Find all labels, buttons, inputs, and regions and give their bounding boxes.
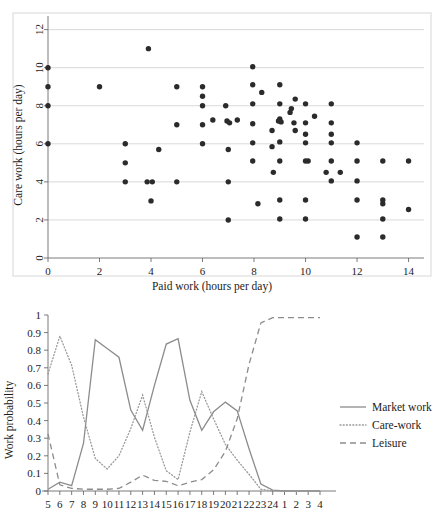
scatter-point (144, 179, 149, 184)
x-tick-label: 0 (45, 265, 51, 277)
x-tick-label: 10 (102, 498, 114, 510)
scatter-point (380, 158, 385, 163)
y-tick-label: 0 (36, 485, 42, 497)
x-tick-label: 11 (114, 498, 125, 510)
scatter-point (293, 128, 298, 133)
scatter-point (226, 217, 231, 222)
scatter-point (354, 178, 359, 183)
x-tick-label: 15 (161, 498, 173, 510)
scatter-point (277, 139, 282, 144)
scatter-data-points (45, 46, 411, 240)
scatter-point (303, 216, 308, 221)
line-x-tick-labels: 567891011121314151617181920212223241234 (45, 498, 323, 510)
scatter-point (250, 82, 255, 87)
y-tick-label: 10 (33, 62, 45, 74)
y-tick-label: 0.1 (27, 467, 41, 479)
scatter-point (323, 170, 328, 175)
line-y-axis-title: Work probability (3, 380, 16, 459)
scatter-point (278, 119, 283, 124)
scatter-point (329, 120, 334, 125)
x-tick-label: 3 (305, 498, 311, 510)
scatter-point (259, 90, 264, 95)
scatter-svg: 02468101214 024681012 Paid work (hours p… (0, 0, 444, 295)
scatter-point (156, 147, 161, 152)
scatter-point (271, 170, 276, 175)
scatter-axis-lines (44, 16, 424, 262)
x-tick-label: 10 (300, 265, 312, 277)
scatter-point (277, 101, 282, 106)
scatter-point (200, 94, 205, 99)
x-tick-label: 14 (403, 265, 415, 277)
x-tick-label: 6 (57, 498, 63, 510)
scatter-point (329, 178, 334, 183)
scatter-point (250, 64, 255, 69)
scatter-point (303, 101, 308, 106)
scatter-point (354, 197, 359, 202)
y-tick-label: 0.4 (27, 415, 41, 427)
y-tick-label: 4 (33, 179, 45, 185)
scatter-point (287, 110, 292, 115)
x-tick-label: 8 (81, 498, 87, 510)
x-tick-label: 12 (125, 498, 136, 510)
x-tick-label: 12 (352, 265, 363, 277)
legend-label-leisure: Leisure (372, 437, 406, 449)
x-tick-label: 16 (173, 498, 185, 510)
scatter-point (45, 141, 50, 146)
x-tick-label: 23 (255, 498, 267, 510)
line-y-tick-labels: 00.10.20.30.40.50.60.70.80.91 (27, 309, 41, 497)
scatter-point (380, 201, 385, 206)
y-tick-label: 0.7 (27, 362, 41, 374)
line-series-group (48, 318, 320, 491)
scatter-point (305, 158, 310, 163)
scatter-point (200, 141, 205, 146)
y-tick-label: 12 (33, 24, 45, 35)
x-tick-label: 1 (282, 498, 288, 510)
scatter-point (174, 179, 179, 184)
scatter-point (174, 122, 179, 127)
scatter-point (303, 132, 308, 137)
scatter-x-tick-labels: 02468101214 (45, 265, 414, 277)
scatter-point (380, 216, 385, 221)
y-tick-label: 0.2 (27, 450, 41, 462)
x-tick-label: 17 (184, 498, 196, 510)
scatter-point (250, 158, 255, 163)
scatter-point (250, 101, 255, 106)
series-path-leisure (48, 318, 320, 490)
y-tick-label: 0.6 (27, 379, 41, 391)
scatter-point (250, 121, 255, 126)
scatter-point (250, 140, 255, 145)
scatter-point (329, 140, 334, 145)
scatter-point (277, 158, 282, 163)
scatter-point (380, 234, 385, 239)
scatter-point (269, 144, 274, 149)
x-tick-label: 20 (220, 498, 232, 510)
y-tick-label: 0.9 (27, 327, 41, 339)
x-tick-label: 22 (244, 498, 255, 510)
scatter-point (235, 117, 240, 122)
x-tick-label: 9 (93, 498, 99, 510)
scatter-point (174, 84, 179, 89)
x-tick-label: 19 (208, 498, 220, 510)
scatter-point (123, 179, 128, 184)
scatter-point (227, 120, 232, 125)
x-tick-label: 2 (294, 498, 300, 510)
y-tick-label: 8 (33, 102, 45, 108)
scatter-point (277, 82, 282, 87)
scatter-point (97, 84, 102, 89)
line-axis-lines (42, 315, 336, 491)
scatter-point (146, 46, 151, 51)
scatter-point (200, 103, 205, 108)
x-tick-label: 18 (196, 498, 208, 510)
x-tick-label: 21 (232, 498, 243, 510)
scatter-gridlines (48, 30, 424, 220)
scatter-point (312, 114, 317, 119)
x-tick-label: 2 (97, 265, 103, 277)
scatter-point (354, 234, 359, 239)
scatter-point (354, 140, 359, 145)
scatter-point (200, 122, 205, 127)
scatter-point (255, 201, 260, 206)
scatter-y-axis-title: Care work (hours per day) (12, 84, 25, 206)
scatter-point (303, 120, 308, 125)
scatter-point (293, 96, 298, 101)
scatter-point (45, 65, 50, 70)
